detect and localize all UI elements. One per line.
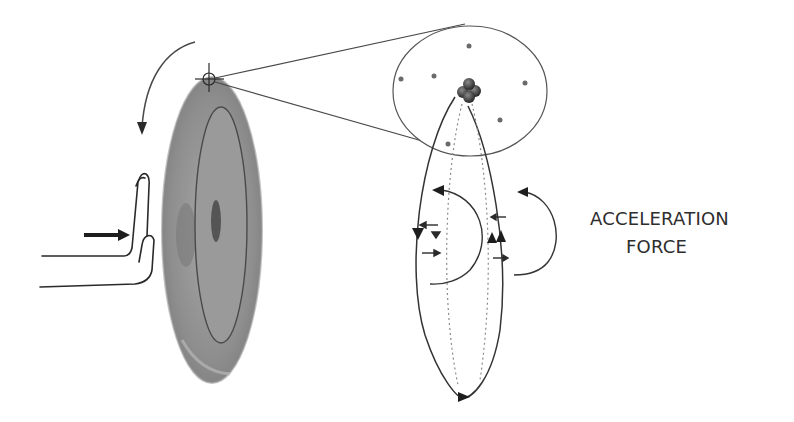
force-arrows <box>420 214 508 261</box>
direction-arrows <box>412 228 506 402</box>
acceleration-label: ACCELERATION <box>590 210 729 228</box>
force-label: FORCE <box>626 238 687 256</box>
curved-acceleration-arrow-right <box>514 187 556 275</box>
arrow-right-icon <box>84 229 130 241</box>
rotating-disc <box>162 77 262 383</box>
hand-icon <box>40 174 154 287</box>
